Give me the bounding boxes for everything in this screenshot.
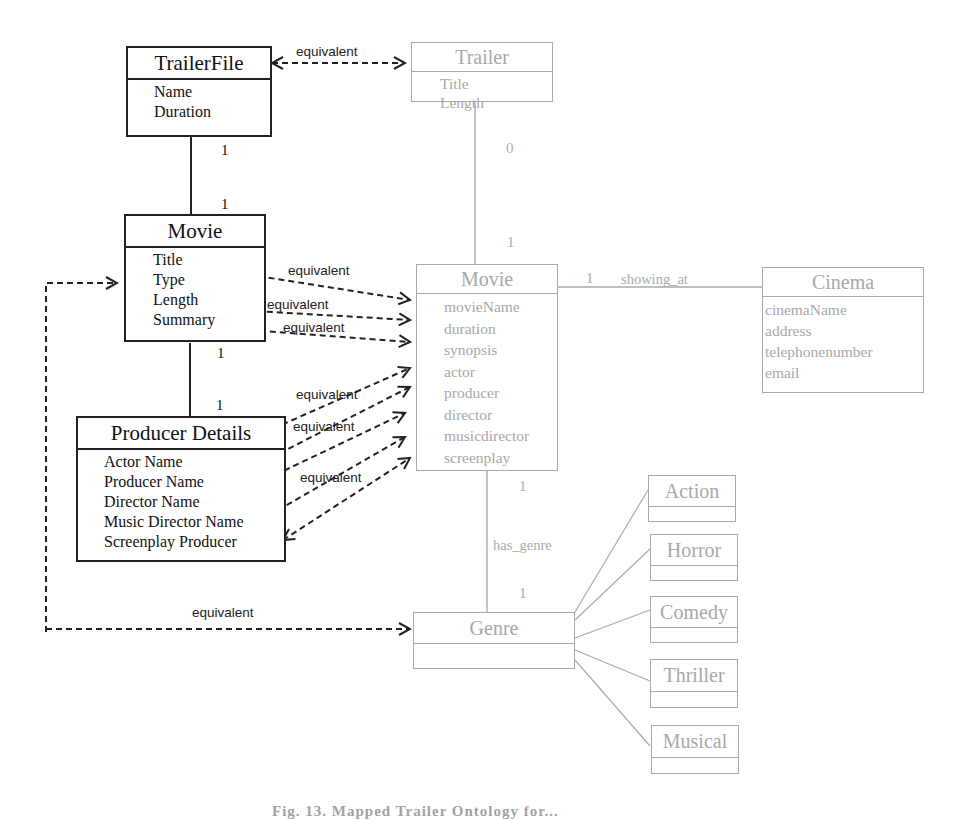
- mapping-label: equivalent: [300, 470, 362, 485]
- class-title: Cinema: [763, 268, 923, 297]
- attribute: Summary: [153, 310, 264, 330]
- mapping-label: equivalent: [296, 44, 358, 59]
- attribute: Length: [153, 290, 264, 310]
- class-movie-right: Movie movieName duration synopsis actor …: [416, 264, 558, 471]
- mapping-label: equivalent: [296, 387, 358, 402]
- attribute: movieName: [444, 296, 557, 318]
- attribute: director: [444, 404, 557, 426]
- class-title: Thriller: [651, 660, 737, 692]
- multiplicity: 1: [586, 270, 594, 287]
- mapping-label: equivalent: [267, 297, 329, 312]
- attribute: Type: [153, 270, 264, 290]
- assoc-genre-musical: [575, 660, 650, 746]
- class-title: Genre: [414, 613, 574, 644]
- assoc-genre-action: [575, 490, 648, 612]
- class-movie-left: Movie Title Type Length Summary: [124, 214, 266, 342]
- attribute: screenplay: [444, 447, 557, 469]
- association-label-has-genre: has_genre: [493, 537, 552, 554]
- attribute: Screenplay Producer: [104, 532, 284, 552]
- attribute: synopsis: [444, 339, 557, 361]
- attribute: Title: [153, 250, 264, 270]
- class-title: Movie: [417, 265, 557, 294]
- attribute: address: [765, 320, 923, 341]
- class-title: TrailerFile: [128, 48, 270, 80]
- class-title: Producer Details: [78, 418, 284, 450]
- class-musical: Musical: [651, 725, 739, 774]
- class-horror: Horror: [650, 534, 738, 581]
- attribute: producer: [444, 382, 557, 404]
- class-cinema: Cinema cinemaName address telephonenumbe…: [762, 267, 924, 393]
- assoc-genre-comedy: [575, 610, 650, 638]
- multiplicity: 1: [221, 142, 229, 159]
- class-title: Trailer: [412, 43, 552, 72]
- multiplicity: 1: [519, 478, 527, 495]
- assoc-genre-thriller: [575, 650, 650, 681]
- class-title: Horror: [651, 535, 737, 566]
- attribute: Music Director Name: [104, 512, 284, 532]
- attribute: duration: [444, 318, 557, 340]
- class-trailerfile: TrailerFile Name Duration: [126, 46, 272, 137]
- class-genre: Genre: [413, 612, 575, 669]
- attribute: Actor Name: [104, 452, 284, 472]
- assoc-genre-horror: [575, 549, 650, 620]
- attribute: email: [765, 362, 923, 383]
- multiplicity: 1: [519, 585, 527, 602]
- mapping-label: equivalent: [293, 419, 355, 434]
- class-producer-details: Producer Details Actor Name Producer Nam…: [76, 416, 286, 562]
- mapping-label: equivalent: [192, 605, 254, 620]
- class-comedy: Comedy: [650, 596, 738, 643]
- attribute: actor: [444, 361, 557, 383]
- class-action: Action: [648, 475, 736, 522]
- multiplicity: 1: [216, 397, 224, 414]
- attribute: Director Name: [104, 492, 284, 512]
- attribute: Title: [440, 74, 552, 93]
- multiplicity: 1: [221, 196, 229, 213]
- class-trailer: Trailer Title Length: [411, 42, 553, 102]
- multiplicity: 1: [507, 234, 515, 251]
- mapping-label: equivalent: [288, 263, 350, 278]
- class-title: Musical: [652, 726, 738, 758]
- mapping-label: equivalent: [283, 320, 345, 335]
- class-title: Action: [649, 476, 735, 507]
- class-thriller: Thriller: [650, 659, 738, 708]
- class-title: Movie: [126, 216, 264, 248]
- attribute: cinemaName: [765, 299, 923, 320]
- figure-caption: Fig. 13. Mapped Trailer Ontology for...: [272, 803, 559, 820]
- multiplicity: 0: [506, 140, 514, 157]
- attribute: Duration: [154, 102, 270, 122]
- association-label-showing-at: showing_at: [621, 271, 688, 288]
- attribute: Length: [440, 93, 552, 112]
- multiplicity: 1: [217, 345, 225, 362]
- attribute: telephonenumber: [765, 341, 923, 362]
- attribute: Name: [154, 82, 270, 102]
- attribute: musicdirector: [444, 425, 557, 447]
- class-title: Comedy: [651, 597, 737, 628]
- attribute: Producer Name: [104, 472, 284, 492]
